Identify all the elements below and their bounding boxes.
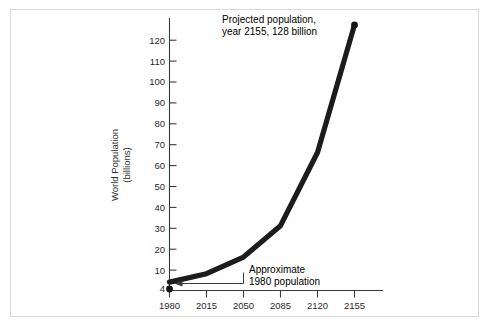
x-tick-label-2050: 2050 (233, 300, 254, 311)
y-axis-ticks: 120 110 100 90 80 70 60 50 40 30 20 10 (149, 35, 176, 295)
y-tick-label-100: 100 (149, 76, 165, 87)
data-point-2155-marker (351, 22, 358, 29)
y-axis-title: World Population (billions) (109, 129, 132, 201)
annotation-projected-line2: year 2155, 128 billion (222, 26, 317, 38)
x-tick-label-2015: 2015 (196, 300, 217, 311)
y-axis-title-line2: (billions) (121, 147, 132, 182)
x-tick-label-2085: 2085 (270, 300, 291, 311)
y-tick-label-10: 10 (154, 265, 165, 276)
annotation-approximate-line1: Approximate (249, 264, 320, 276)
chart-page: 120 110 100 90 80 70 60 50 40 30 20 10 (0, 0, 490, 333)
annotation-projected-line1: Projected population, (222, 14, 317, 26)
y-tick-label-4: 4 (160, 283, 165, 294)
population-curve (170, 25, 355, 282)
population-line-chart: 120 110 100 90 80 70 60 50 40 30 20 10 (0, 0, 490, 333)
y-tick-label-110: 110 (150, 56, 165, 67)
x-tick-label-1980: 1980 (159, 300, 180, 311)
y-tick-label-20: 20 (154, 244, 165, 255)
data-point-1980-marker (166, 286, 173, 293)
y-tick-label-90: 90 (154, 97, 165, 108)
annotation-projected-population: Projected population, year 2155, 128 bil… (222, 14, 317, 37)
y-axis-title-line1: World Population (109, 129, 120, 201)
x-tick-label-2155: 2155 (344, 300, 365, 311)
x-axis-ticks: 1980 2015 2050 2085 2120 2155 (159, 291, 365, 312)
y-tick-label-70: 70 (154, 139, 165, 150)
annotation-approximate-line2: 1980 population (249, 276, 320, 288)
y-tick-label-40: 40 (154, 202, 165, 213)
y-tick-label-30: 30 (154, 223, 165, 234)
y-tick-label-80: 80 (154, 118, 165, 129)
y-tick-label-120: 120 (149, 35, 165, 46)
y-tick-label-50: 50 (154, 181, 165, 192)
y-tick-label-60: 60 (154, 160, 165, 171)
x-tick-label-2120: 2120 (307, 300, 328, 311)
annotation-approximate-1980: Approximate 1980 population (249, 264, 320, 287)
